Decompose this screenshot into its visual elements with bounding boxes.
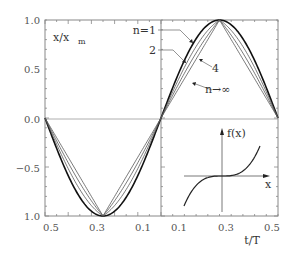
chart-figure: 1.0 0.5 0.0 −0.5 1.0 0.5 0.3 0.1 0.1 0.3… — [0, 0, 295, 257]
svg-text:0.5: 0.5 — [264, 222, 280, 233]
svg-text:x/x: x/x — [53, 31, 70, 44]
x-tick-labels: 0.5 0.3 0.1 0.1 0.3 0.5 — [43, 222, 280, 233]
svg-text:m: m — [78, 37, 86, 46]
svg-text:0.0: 0.0 — [24, 114, 40, 125]
svg-text:0.1: 0.1 — [171, 222, 187, 233]
svg-text:0.5: 0.5 — [24, 64, 40, 75]
inset-xlabel: x — [265, 178, 272, 191]
svg-text:0.5: 0.5 — [43, 222, 59, 233]
label-ninf: n→∞ — [205, 83, 230, 96]
svg-text:−0.5: −0.5 — [16, 163, 40, 174]
inset-plot: f(x) x — [184, 127, 272, 212]
svg-text:0.1: 0.1 — [135, 222, 151, 233]
y-tick-labels: 1.0 0.5 0.0 −0.5 1.0 — [16, 15, 40, 222]
label-n4: 4 — [212, 62, 219, 75]
svg-text:0.3: 0.3 — [89, 222, 105, 233]
y-axis-label: x/x m — [53, 31, 86, 46]
svg-text:1.0: 1.0 — [24, 15, 40, 26]
label-n1: n=1 — [133, 24, 156, 37]
x-axis-label: t/T — [244, 234, 260, 247]
svg-text:1.0: 1.0 — [24, 211, 40, 222]
label-n2: 2 — [149, 44, 156, 57]
svg-text:0.3: 0.3 — [218, 222, 234, 233]
inset-ylabel: f(x) — [227, 127, 246, 140]
